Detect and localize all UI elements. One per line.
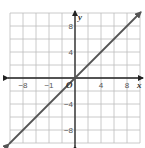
x-axis-label: x <box>136 80 142 90</box>
y-tick-label: 8 <box>69 22 74 31</box>
x-tick-label: 8 <box>125 81 130 90</box>
origin-label: O <box>66 80 73 90</box>
y-tick-label: −8 <box>64 126 74 135</box>
coordinate-plane: −8−14884−4−8 x y O <box>0 0 145 148</box>
x-tick-label: −1 <box>44 81 54 90</box>
y-tick-label: 4 <box>69 48 74 57</box>
y-axis-label: y <box>77 12 83 22</box>
x-tick-label: 4 <box>99 81 104 90</box>
x-tick-label: −8 <box>18 81 28 90</box>
y-tick-label: −4 <box>64 100 74 109</box>
